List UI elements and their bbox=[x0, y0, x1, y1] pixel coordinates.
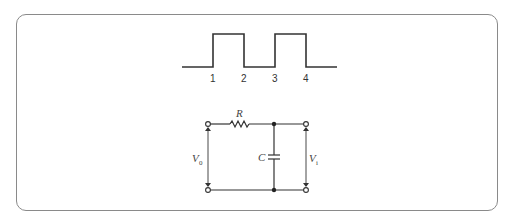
resistor-symbol bbox=[230, 121, 249, 127]
tick-label-3: 3 bbox=[272, 73, 278, 84]
svg-text:0: 0 bbox=[199, 159, 203, 167]
tick-label-4: 4 bbox=[303, 73, 309, 84]
rc-circuit bbox=[208, 121, 306, 190]
tick-label-2: 2 bbox=[241, 73, 247, 84]
figure-canvas: 1 2 3 4 R C bbox=[0, 0, 512, 223]
tick-label-1: 1 bbox=[210, 73, 216, 84]
terminal-bottom-right bbox=[304, 188, 309, 193]
terminals bbox=[206, 122, 309, 193]
terminal-top-right bbox=[304, 122, 309, 127]
capacitor-label: C bbox=[258, 151, 266, 163]
arrowheads bbox=[205, 127, 309, 187]
waveform-tick-labels: 1 2 3 4 bbox=[210, 73, 309, 84]
terminal-top-left bbox=[206, 122, 211, 127]
input-voltage-label: V 0 bbox=[192, 152, 203, 167]
svg-text:i: i bbox=[316, 159, 318, 167]
output-voltage-label: V i bbox=[309, 152, 318, 167]
resistor-label: R bbox=[235, 107, 243, 119]
terminal-bottom-left bbox=[206, 188, 211, 193]
pulse-waveform bbox=[182, 34, 337, 67]
